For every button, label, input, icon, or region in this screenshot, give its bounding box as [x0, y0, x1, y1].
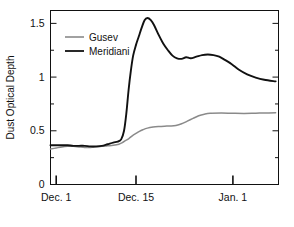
x-tick-label-2: Jan. 1: [219, 191, 248, 203]
dust-optical-depth-line-chart: 00.511.5 Dec. 1Dec. 15Jan. 1 Dust Optica…: [0, 0, 294, 227]
y-tick-label-2: 1: [39, 71, 45, 83]
chart-figure: 00.511.5 Dec. 1Dec. 15Jan. 1 Dust Optica…: [0, 0, 294, 227]
x-tick-label-1: Dec. 15: [118, 191, 154, 203]
y-tick-label-0: 0: [39, 178, 45, 190]
y-tick-label-3: 1.5: [30, 17, 45, 29]
y-axis-title: Dust Optical Depth: [5, 56, 16, 140]
x-tick-label-0: Dec. 1: [41, 191, 72, 203]
legend-label-meridiani: Meridiani: [89, 46, 130, 57]
y-tick-label-1: 0.5: [30, 124, 45, 136]
legend-label-gusev: Gusev: [89, 32, 118, 43]
